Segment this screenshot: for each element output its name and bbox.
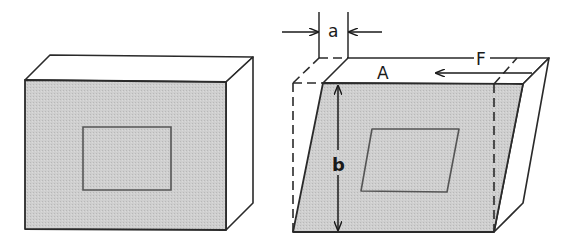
label-height: b (332, 154, 345, 175)
right-top-face (323, 58, 549, 84)
undeformed-block (25, 55, 253, 230)
left-front-face (25, 80, 226, 230)
right-front-face (293, 83, 523, 232)
label-force: F (476, 49, 486, 69)
left-top-face (25, 55, 253, 82)
sheared-block: a A F b (282, 12, 549, 232)
label-area: A (377, 63, 389, 83)
shear-diagram: a A F b (0, 0, 576, 250)
left-side-face (226, 57, 253, 230)
label-a: a (328, 21, 338, 41)
